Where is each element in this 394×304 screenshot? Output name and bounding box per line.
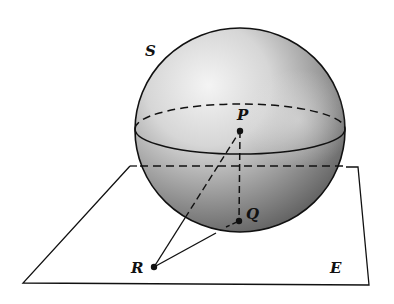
label-p: P (236, 106, 249, 124)
label-q: Q (246, 205, 259, 223)
label-e: E (329, 259, 342, 277)
point-p (237, 128, 243, 134)
segment-rp-outside (154, 218, 185, 267)
label-r: R (130, 259, 143, 277)
point-q (236, 218, 242, 224)
sphere-plane-diagram: S P Q R E (0, 0, 394, 304)
segment-rq-outside (154, 233, 216, 267)
label-s: S (145, 42, 156, 60)
point-r (151, 264, 157, 270)
